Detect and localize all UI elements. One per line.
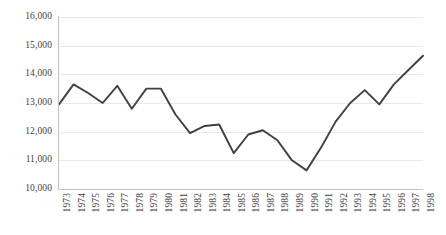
x-tick-label: 1989 [296, 193, 306, 227]
y-tick-label: 16,000 [0, 12, 52, 22]
plot-area [59, 17, 423, 189]
x-tick-label: 1995 [383, 193, 393, 227]
x-axis-line [58, 189, 423, 190]
x-tick-label: 1987 [267, 193, 277, 227]
x-tick-label: 1993 [354, 193, 364, 227]
x-tick-label: 1977 [121, 193, 131, 227]
x-tick-label: 1981 [180, 193, 190, 227]
x-tick-label: 1985 [238, 193, 248, 227]
y-tick-label: 12,000 [0, 127, 52, 137]
y-tick-label: 13,000 [0, 98, 52, 108]
y-axis-line [58, 16, 59, 190]
x-tick-label: 1992 [340, 193, 350, 227]
x-tick-label: 1998 [427, 193, 437, 227]
x-tick-label: 1978 [136, 193, 146, 227]
x-tick-label: 1974 [78, 193, 88, 227]
x-tick-label: 1975 [92, 193, 102, 227]
x-tick-label: 1988 [281, 193, 291, 227]
x-tick-label: 1996 [398, 193, 408, 227]
x-tick-label: 1976 [107, 193, 117, 227]
x-tick-label: 1982 [194, 193, 204, 227]
series-polyline [59, 56, 423, 171]
x-tick-label: 1980 [165, 193, 175, 227]
y-tick-label: 10,000 [0, 184, 52, 194]
x-tick-label: 1997 [412, 193, 422, 227]
y-tick-label: 15,000 [0, 41, 52, 51]
y-tick-label: 11,000 [0, 155, 52, 165]
y-tick-label: 14,000 [0, 69, 52, 79]
x-tick-label: 1983 [209, 193, 219, 227]
x-tick-label: 1979 [150, 193, 160, 227]
x-tick-label: 1991 [325, 193, 335, 227]
line-chart: 10,00011,00012,00013,00014,00015,00016,0… [0, 0, 446, 235]
x-tick-label: 1973 [63, 193, 73, 227]
x-tick-label: 1984 [223, 193, 233, 227]
x-tick-label: 1990 [311, 193, 321, 227]
x-tick-label: 1994 [369, 193, 379, 227]
data-series-line [59, 17, 423, 189]
x-tick-label: 1986 [252, 193, 262, 227]
